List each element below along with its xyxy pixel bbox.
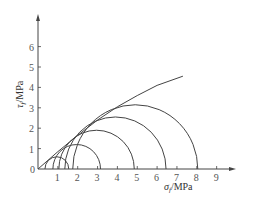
x-tick-label: 1	[55, 172, 60, 183]
x-tick-label: 4	[114, 172, 119, 183]
y-tick-label: 1	[29, 144, 34, 155]
x-tick-label: 8	[194, 172, 199, 183]
origin-label: 0	[30, 164, 35, 175]
x-tick-label: 3	[95, 172, 100, 183]
y-tick-label: 4	[29, 82, 34, 93]
mohr-circles	[45, 105, 198, 169]
x-axis-arrow-icon	[229, 167, 236, 171]
y-ticks: 123456	[29, 42, 41, 155]
y-axis-label: τf/MPa	[14, 80, 27, 108]
y-tick-label: 5	[29, 62, 34, 73]
y-tick-label: 3	[29, 103, 34, 114]
mohr-circle	[59, 130, 134, 169]
y-axis-arrow-icon	[36, 14, 40, 21]
x-tick-label: 2	[75, 172, 80, 183]
mohr-circle-chart: 123456789 123456 0 σf/MPa τf/MPa	[0, 0, 258, 211]
x-tick-label: 9	[214, 172, 219, 183]
x-axis-label: σf/MPa	[164, 181, 193, 194]
mohr-circle	[73, 105, 198, 169]
strength-envelope	[38, 76, 183, 169]
y-tick-label: 2	[29, 123, 34, 134]
y-tick-label: 6	[29, 42, 34, 53]
x-tick-label: 6	[154, 172, 159, 183]
x-tick-label: 5	[134, 172, 139, 183]
mohr-circle	[65, 117, 166, 169]
